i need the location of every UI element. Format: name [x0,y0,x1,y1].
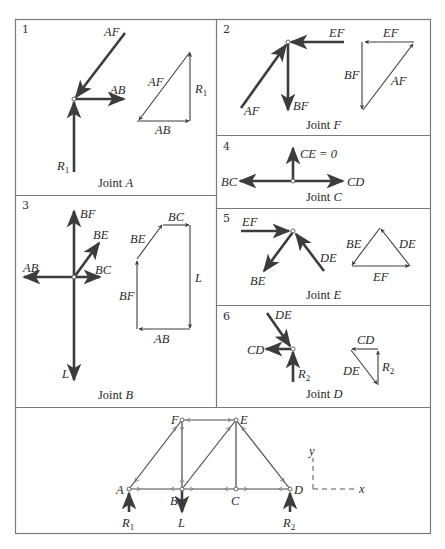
label-bc: BC [95,263,112,277]
joint-c [234,487,238,491]
label-ab: AB [22,261,39,275]
polygon-label-af: AF [147,75,164,89]
truss-members [129,420,290,489]
joint-label-a: A [115,483,124,497]
label-de: DE [319,251,337,265]
polygon-af [139,52,190,120]
label-r2: R2 [282,516,295,532]
label-ab: AB [109,83,126,97]
panel-number: 3 [22,199,29,212]
label-ce: CE = 0 [300,147,338,161]
joint-d [288,487,292,491]
label-bf: BF [293,99,309,113]
label-r1: R1 [56,159,69,175]
label-bc: BC [221,175,238,189]
polygon-label-de: DE [342,364,360,378]
polygon-label-ab: AB [153,332,170,346]
panel-joint-c: 4 CE = 0 BC CD Joint C [221,140,364,204]
joint-label-f: F [170,413,179,427]
axis-label-y: y [307,444,315,458]
polygon-label-bf: BF [344,68,360,82]
polygon-label-ef: EF [372,270,389,284]
polygon-label-ef: EF [382,26,399,40]
joint-f [180,418,184,422]
polygon-label-de: DE [398,237,416,251]
panel-joint-a: 1 AF AB R1 AF AB R1 Joint A [22,23,207,190]
truss-overview: A B C D E F R1 L R2 y x [115,413,365,532]
polygon-label-cd: CD [357,333,374,347]
member-de [236,420,290,489]
label-be: BE [93,228,109,242]
truss-joint-diagram: 1 AF AB R1 AF AB R1 Joint A 2 EF AF BF E… [0,0,445,549]
label-be: BE [250,274,266,288]
member-af [129,420,182,489]
polygon-label-l: L [194,271,202,285]
force-af-arrow [241,45,286,108]
caption-joint-a: Joint A [98,176,133,190]
axis-label-x: x [358,482,365,496]
caption-joint-d: Joint D [306,387,342,401]
label-cd: CD [347,175,364,189]
joint-label-c: C [231,494,240,508]
force-be-arrow [264,232,293,271]
joint-label-b: B [170,494,178,508]
panel-joint-e: 5 EF BE DE BE DE EF Joint E [223,212,416,302]
label-r1: R1 [121,516,134,532]
label-l: L [177,516,185,530]
polygon-label-be: BE [130,232,146,246]
joint-node [72,275,76,279]
panel-joint-f: 2 EF AF BF EF BF AF Joint F [223,23,414,132]
label-bf: BF [80,207,96,221]
joint-node [291,179,295,183]
polygon-label-bc: BC [168,210,185,224]
polygon-label-bf: BF [119,289,135,303]
joint-a [127,487,131,491]
label-de: DE [274,308,292,322]
polygon-label-af: AF [390,74,407,88]
polygon-label-r1: R1 [194,82,207,98]
joint-node [72,97,76,101]
panel-number: 5 [223,212,230,225]
panel-number: 6 [223,310,230,323]
joint-b [180,487,184,491]
joint-node [291,347,295,351]
joint-node [286,40,290,44]
joint-label-e: E [239,413,248,427]
panel-number: 2 [223,23,230,36]
caption-joint-c: Joint C [306,190,342,204]
panel-joint-b: 3 BF BE AB BC L BC BE L BF AB Joint B [22,199,202,402]
joint-node [291,229,295,233]
member-be [182,420,236,489]
panel-joint-d: 6 DE CD R2 CD DE R2 Joint D [223,308,394,401]
caption-joint-e: Joint E [306,288,341,302]
label-l: L [61,367,69,381]
polygon-label-ab: AB [154,123,171,137]
polygon-label-be: BE [346,237,362,251]
label-cd: CD [247,343,264,357]
caption-joint-f: Joint F [306,118,341,132]
label-ef: EF [328,26,345,40]
panel-number: 1 [22,23,29,36]
label-af: AF [103,25,120,39]
label-ef: EF [241,215,258,229]
joint-e [234,418,238,422]
polygon-label-r2: R2 [381,360,394,376]
caption-joint-b: Joint B [98,388,133,402]
joint-label-d: D [293,483,303,497]
label-r2: R2 [297,367,310,383]
label-af: AF [243,104,260,118]
coordinate-axes: y x [307,444,365,496]
panel-number: 4 [223,140,230,153]
